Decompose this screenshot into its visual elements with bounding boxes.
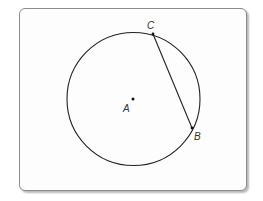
geometry-canvas: A C B [0,0,263,201]
label-C: C [147,20,155,31]
point-C [152,33,155,36]
center-point-A [132,98,135,101]
label-B: B [194,131,201,142]
label-A: A [122,103,130,114]
chord-CB [153,34,192,128]
point-B [191,127,194,130]
